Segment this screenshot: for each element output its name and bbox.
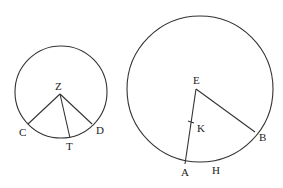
label-T: T (66, 140, 73, 152)
right-circle (127, 16, 273, 162)
label-E: E (193, 74, 200, 86)
geometry-figure: Z C T D E A B H K (0, 0, 283, 188)
left-circle-group: Z C T D (15, 46, 107, 152)
radius-ZT (60, 94, 70, 138)
radius-ZD (60, 94, 92, 124)
label-K: K (197, 122, 205, 134)
label-Z: Z (55, 80, 62, 92)
radius-ZC (28, 94, 60, 124)
label-C: C (19, 126, 26, 138)
right-circle-group: E A B H K (127, 16, 273, 178)
label-H: H (212, 164, 220, 176)
label-A: A (181, 166, 189, 178)
label-D: D (96, 124, 104, 136)
label-B: B (259, 131, 266, 143)
left-circle (15, 46, 107, 138)
radius-EA (185, 89, 196, 164)
